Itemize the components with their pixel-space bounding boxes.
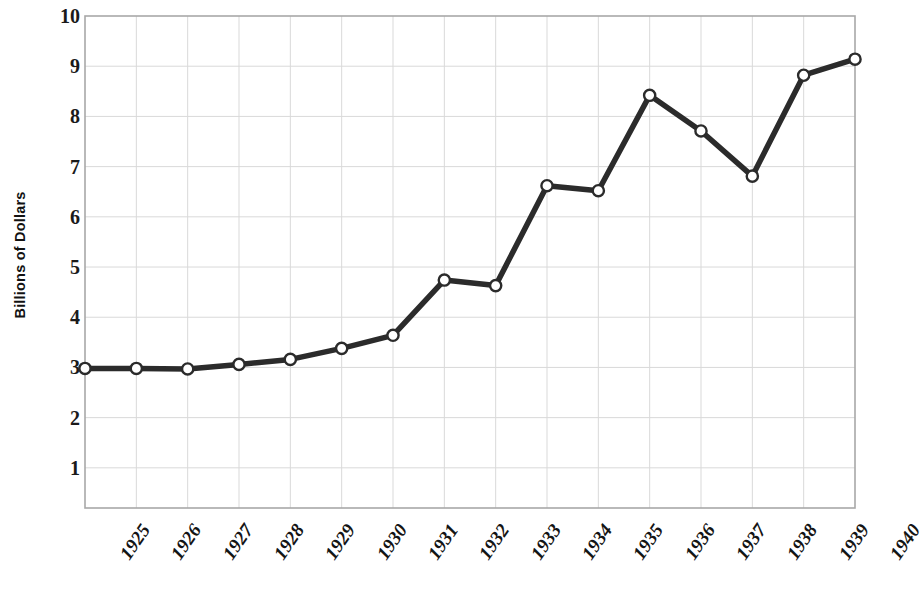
data-point: [285, 354, 296, 365]
data-line: [85, 59, 855, 369]
data-point: [387, 330, 398, 341]
data-markers: [79, 54, 860, 375]
data-point: [439, 274, 450, 285]
data-point: [336, 343, 347, 354]
data-point: [233, 359, 244, 370]
data-point: [798, 70, 809, 81]
x-axis-tick-label: 1940: [885, 520, 924, 564]
data-point: [79, 363, 90, 374]
data-point: [695, 125, 706, 136]
data-point: [182, 363, 193, 374]
data-point: [593, 185, 604, 196]
data-point: [644, 90, 655, 101]
data-point: [490, 280, 501, 291]
data-point: [747, 171, 758, 182]
data-point: [541, 180, 552, 191]
data-point: [131, 363, 142, 374]
data-point: [849, 54, 860, 65]
gridlines: [85, 16, 855, 508]
plot-border: [85, 16, 855, 508]
